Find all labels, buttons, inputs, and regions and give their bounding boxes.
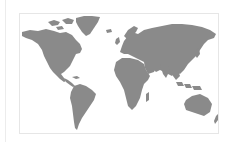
region-south-america <box>70 84 96 130</box>
region-new-zealand <box>214 114 218 124</box>
region-iceland <box>106 29 112 33</box>
world-map-frame <box>19 13 219 134</box>
region-australia <box>184 94 212 116</box>
left-divider <box>5 0 6 142</box>
region-madagascar <box>146 92 149 102</box>
world-map <box>20 14 219 134</box>
region-indonesia <box>176 82 202 90</box>
region-arctic-islands <box>48 18 74 30</box>
region-africa <box>114 58 150 110</box>
region-north-america <box>22 29 82 82</box>
region-greenland <box>76 16 100 36</box>
region-caribbean <box>72 76 80 79</box>
region-india <box>160 64 170 78</box>
region-uk <box>115 37 120 45</box>
region-central-america <box>64 78 75 87</box>
